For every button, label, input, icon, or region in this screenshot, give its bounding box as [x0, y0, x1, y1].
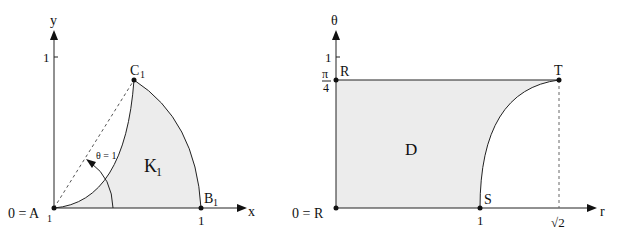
region-k1: [54, 80, 201, 208]
point-c-label: C: [130, 63, 139, 78]
point-t: [557, 78, 562, 83]
angle-label: θ = 1: [96, 150, 116, 161]
right-panel: θ r 1 π 4 R T S 0 = R 1 √2 D: [292, 13, 605, 230]
pi-denominator: 4: [323, 81, 329, 95]
point-s: [478, 206, 483, 211]
r-axis-label: r: [600, 204, 605, 219]
region-d: [336, 80, 559, 208]
theta-axis-label: θ: [331, 13, 338, 28]
point-t-label: T: [554, 63, 563, 78]
x-axis-arrow-icon: [237, 204, 247, 212]
point-r-top: [334, 78, 339, 83]
point-s-label: S: [484, 192, 492, 207]
y-tick-label: 1: [43, 50, 50, 65]
pi-numerator: π: [322, 67, 328, 81]
origin-label: 0 = A: [8, 206, 40, 221]
r-tick-1: 1: [477, 213, 484, 228]
point-b-sub: 1: [213, 197, 218, 208]
theta-axis-arrow-icon: [332, 30, 340, 40]
y-axis-label: y: [50, 13, 57, 28]
r-axis-arrow-icon: [587, 204, 597, 212]
x-tick-label: 1: [198, 213, 205, 228]
diagram-canvas: y x 1 1 0 = A 1 B 1 C 1 K 1 θ = 1 θ r 1 …: [0, 0, 617, 242]
point-c-sub: 1: [140, 69, 145, 80]
point-b-label: B: [204, 191, 213, 206]
r-tick-sqrt2: √2: [551, 215, 565, 230]
region-sub: 1: [156, 165, 162, 179]
point-b1: [199, 206, 204, 211]
left-panel: y x 1 1 0 = A 1 B 1 C 1 K 1 θ = 1: [8, 13, 255, 228]
origin-label: 0 = R: [292, 206, 324, 221]
region-label: D: [405, 140, 417, 159]
x-axis-label: x: [248, 204, 255, 219]
angle-arrow-icon: [86, 159, 96, 168]
point-origin: [334, 206, 339, 211]
y-axis-arrow-icon: [50, 30, 58, 40]
point-a1: [52, 206, 57, 211]
theta-tick-label: 1: [325, 50, 332, 65]
point-r-top-label: R: [340, 64, 350, 79]
point-c1: [132, 78, 137, 83]
origin-sub: 1: [47, 213, 52, 224]
